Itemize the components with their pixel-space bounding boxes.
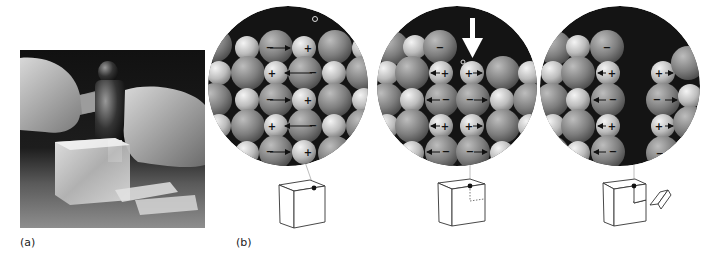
svg-text:−: − <box>309 67 317 78</box>
svg-text:−: − <box>266 146 274 157</box>
svg-text:+: + <box>268 121 276 132</box>
svg-text:+: + <box>465 121 473 132</box>
ionic-lattice-diagram: −+ +− −+ +− −+ <box>0 0 720 253</box>
svg-text:+: + <box>304 95 312 106</box>
svg-text:+: + <box>441 68 449 79</box>
svg-text:+: + <box>608 121 616 132</box>
lattice-stage-cleaved: − ++ −− ++ −− <box>535 6 707 170</box>
svg-text:−: − <box>609 94 617 105</box>
svg-text:−: − <box>653 94 661 105</box>
svg-text:−: − <box>609 146 617 157</box>
svg-text:+: + <box>608 68 616 79</box>
svg-text:−: − <box>466 94 474 105</box>
svg-text:−: − <box>442 94 450 105</box>
cleaved-fragment <box>650 190 671 209</box>
cube-intact <box>279 180 325 228</box>
svg-text:−: − <box>266 42 274 53</box>
svg-text:−: − <box>656 148 664 159</box>
svg-text:−: − <box>309 120 317 131</box>
svg-text:−: − <box>442 146 450 157</box>
svg-text:+: + <box>465 68 473 79</box>
svg-text:+: + <box>655 121 663 132</box>
cube-stressed <box>438 179 485 226</box>
lattice-stage-intact: −+ +− −+ +− −+ <box>198 6 380 170</box>
svg-text:−: − <box>436 42 444 53</box>
cube-cleaved <box>603 179 646 226</box>
svg-text:−: − <box>266 94 274 105</box>
svg-text:+: + <box>268 68 276 79</box>
svg-text:+: + <box>441 121 449 132</box>
svg-text:+: + <box>304 43 312 54</box>
svg-text:−: − <box>603 42 611 53</box>
svg-text:+: + <box>655 68 663 79</box>
lattice-stage-stressed: − ++ −− ++ −− <box>369 6 547 170</box>
svg-text:+: + <box>304 147 312 158</box>
svg-text:−: − <box>466 146 474 157</box>
